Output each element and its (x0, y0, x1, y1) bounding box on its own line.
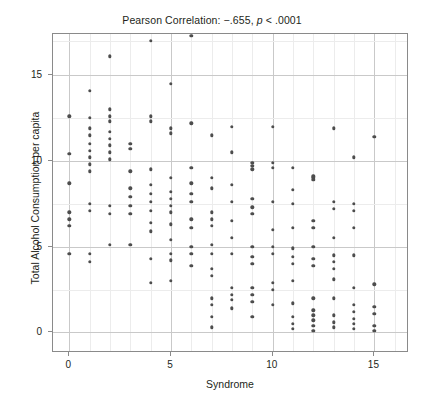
data-point (190, 182, 193, 185)
data-point (312, 219, 315, 222)
data-point (149, 39, 152, 42)
data-point (312, 245, 315, 248)
data-point (230, 183, 233, 186)
data-point (210, 252, 213, 255)
data-point (312, 319, 315, 322)
data-point (291, 302, 294, 305)
data-point (251, 255, 254, 258)
data-point (190, 121, 193, 124)
data-point (129, 187, 132, 190)
data-point (169, 252, 172, 255)
data-point (251, 245, 254, 248)
data-point (332, 260, 335, 263)
x-axis-tick (272, 352, 273, 356)
data-point (230, 293, 233, 296)
data-point (332, 296, 335, 299)
data-point (291, 166, 294, 169)
data-point (88, 116, 91, 119)
data-point (251, 212, 254, 215)
y-axis-tick (48, 74, 52, 75)
gridline-vertical-minor (395, 34, 396, 351)
data-point (108, 108, 111, 111)
data-point (251, 293, 254, 296)
data-point (271, 125, 274, 128)
data-point (88, 163, 91, 166)
data-point (210, 187, 213, 190)
data-point (210, 326, 213, 329)
gridline-horizontal (53, 247, 407, 248)
data-point (271, 252, 274, 255)
gridline-horizontal-minor (53, 290, 407, 291)
data-point (210, 267, 213, 270)
data-point (88, 252, 91, 255)
data-point (332, 207, 335, 210)
data-point (230, 252, 233, 255)
gridline-vertical-minor (232, 34, 233, 351)
data-point (352, 202, 355, 205)
data-point (149, 183, 152, 186)
data-point (149, 192, 152, 195)
data-point (210, 315, 213, 318)
x-axis-tick (170, 352, 171, 356)
data-point (169, 279, 172, 282)
data-point (373, 283, 376, 286)
data-point (312, 308, 315, 311)
data-point (373, 305, 376, 308)
data-point (210, 211, 213, 214)
data-point (271, 288, 274, 291)
data-point (373, 312, 376, 315)
data-point (210, 176, 213, 179)
y-axis-tick (48, 331, 52, 332)
data-point (230, 236, 233, 239)
data-point (169, 238, 172, 241)
data-point (129, 212, 132, 215)
data-point (373, 324, 376, 327)
gridline-vertical-minor (90, 34, 91, 351)
data-point (88, 127, 91, 130)
data-point (291, 327, 294, 330)
data-point (352, 209, 355, 212)
data-point (169, 190, 172, 193)
data-point (68, 218, 71, 221)
data-point (291, 226, 294, 229)
data-point (169, 211, 172, 214)
gridline-vertical-minor (252, 34, 253, 351)
data-point (210, 303, 213, 306)
data-point (149, 257, 152, 260)
data-point (210, 133, 213, 136)
data-point (312, 324, 315, 327)
gridline-vertical-minor (334, 34, 335, 351)
data-point (352, 327, 355, 330)
data-point (271, 245, 274, 248)
data-point (291, 262, 294, 265)
data-point (68, 224, 71, 227)
gridline-vertical-minor (313, 34, 314, 351)
x-axis-tick (68, 352, 69, 356)
gridline-horizontal (53, 75, 407, 76)
data-point (169, 197, 172, 200)
data-point (251, 262, 254, 265)
data-point (230, 298, 233, 301)
data-point (291, 315, 294, 318)
data-point (129, 204, 132, 207)
gridline-vertical (374, 34, 375, 351)
data-point (88, 202, 91, 205)
data-point (88, 133, 91, 136)
data-point (149, 120, 152, 123)
chart-title-suffix: < .0001 (263, 14, 302, 26)
data-point (271, 303, 274, 306)
gridline-vertical (69, 34, 70, 351)
data-point (352, 156, 355, 159)
data-point (210, 296, 213, 299)
data-point (169, 259, 172, 262)
gridline-horizontal (53, 161, 407, 162)
data-point (312, 226, 315, 229)
data-point (149, 168, 152, 171)
y-axis-tick (48, 160, 52, 161)
data-point (88, 170, 91, 173)
data-point (149, 209, 152, 212)
data-point (190, 245, 193, 248)
data-point (291, 322, 294, 325)
data-point (312, 264, 315, 267)
data-point (312, 178, 315, 181)
